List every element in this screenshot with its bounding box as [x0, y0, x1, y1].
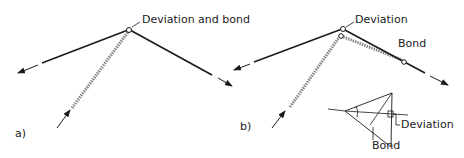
panel-a-label: a)	[15, 128, 26, 139]
panel-a-annotation: Deviation and bond	[142, 14, 250, 25]
inset-deviation-label: Deviation	[401, 119, 454, 130]
panel-a-diagram	[18, 22, 232, 128]
panel-b-annotation-bond: Bond	[398, 38, 426, 49]
panel-b-annotation-deviation: Deviation	[355, 14, 408, 25]
panel-b-label: b)	[240, 121, 251, 132]
inset-bond-label: Bond	[372, 140, 400, 151]
